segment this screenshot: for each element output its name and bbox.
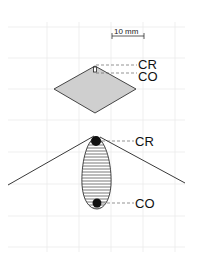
- teardrop-shape: [82, 137, 111, 209]
- co-dot: [93, 199, 102, 208]
- cr-label-lower: CR: [135, 134, 154, 149]
- lower-figure: CR CO: [8, 134, 185, 211]
- diagram: 10 mm CR CO CR CO: [0, 0, 198, 258]
- co-label-upper: CO: [138, 69, 158, 84]
- left-slope-line: [8, 136, 94, 185]
- scale-bar-label: 10 mm: [114, 27, 139, 36]
- upper-figure: CR CO: [54, 57, 158, 113]
- cr-dot: [91, 136, 101, 146]
- scale-bar: 10 mm: [112, 27, 144, 39]
- cr-co-marker: [94, 67, 97, 72]
- co-label-lower: CO: [135, 196, 155, 211]
